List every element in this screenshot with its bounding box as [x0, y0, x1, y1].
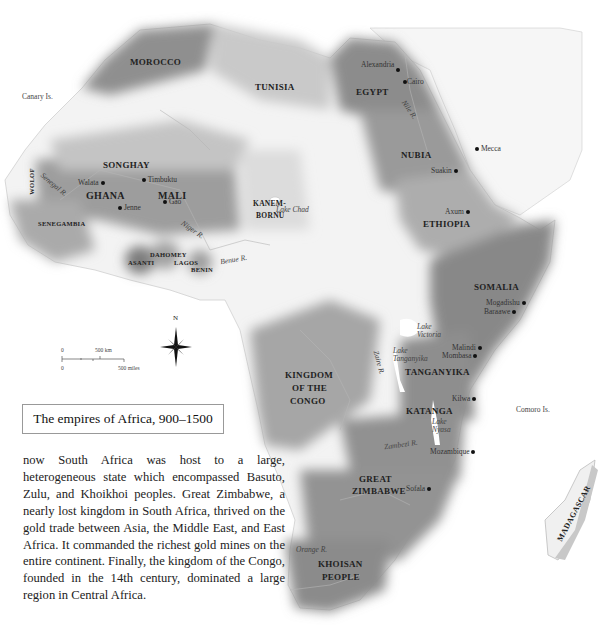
city-dot-mombasa [473, 354, 477, 358]
city-dot-mozambique [471, 450, 475, 454]
label-khoisan: KHOISAN [318, 559, 363, 570]
city-jenne: Jenne [118, 203, 141, 212]
scale-km-zero: 0 [61, 347, 64, 353]
scale-mi-zero: 0 [61, 365, 64, 371]
scale-mi-label: 500 miles [118, 365, 140, 371]
city-baraawe: Baraawe [484, 307, 516, 316]
region-shade-senegambia [10, 200, 95, 262]
city-dot-sofala [427, 487, 431, 491]
city-dot-suakin [454, 169, 458, 173]
label-lake-victoria: LakeVictoria [417, 323, 441, 339]
scale-km-label: 500 km [95, 347, 112, 353]
city-dot-kilwa [472, 397, 476, 401]
compass-rose [160, 327, 192, 367]
label-tanganyika: TANGANYIKA [405, 367, 470, 378]
city-alexandria: Alexandria [361, 60, 394, 69]
city-dot-gao [163, 200, 167, 204]
city-dot-axum [466, 210, 470, 214]
label-somalia: SOMALIA [474, 282, 519, 293]
city-mogadishu: Mogadishu [486, 298, 526, 307]
city-dot-mecca [475, 147, 479, 151]
city-sofala: Sofala [406, 484, 431, 493]
label-nubia: NUBIA [401, 150, 432, 161]
city-dot-jenne [118, 206, 122, 210]
label-morocco: MOROCCO [130, 57, 181, 68]
label-great: GREAT [359, 474, 392, 485]
label-wolof: WOLOF [26, 168, 37, 194]
city-dot-walata [101, 181, 105, 185]
city-dot-timbuktu [142, 178, 146, 182]
label-egypt: EGYPT [356, 87, 389, 98]
city-suakin: Suakin [431, 166, 458, 175]
city-mombasa: Mombasa [442, 351, 477, 360]
label-comoro-islands: Comoro Is. [516, 405, 550, 414]
city-kilwa: Kilwa [452, 394, 476, 403]
label-lake-tanganyika: LakeTanganyika [393, 347, 428, 363]
label-lake-chad: Lake Chad [276, 205, 309, 214]
label-zimbabwe: ZIMBABWE [352, 486, 406, 497]
city-mozambique: Mozambique [430, 447, 475, 456]
city-dot-baraawe [512, 310, 516, 314]
city-gao: Gao [163, 197, 181, 206]
city-axum: Axum [445, 207, 470, 216]
label-people: PEOPLE [322, 572, 360, 583]
city-timbuktu: Timbuktu [142, 175, 177, 184]
label-of-the: OF THE [292, 383, 327, 394]
city-cairo: Cairo [403, 77, 424, 86]
label-lake-nyasa: LakeNyasa [432, 418, 451, 434]
label-ethiopia: ETHIOPIA [423, 219, 470, 230]
label-orange-river: Orange R. [296, 545, 327, 554]
label-songhay: SONGHAY [103, 160, 150, 171]
city-walata: Walata [78, 178, 105, 187]
city-dot-malindi [478, 346, 482, 350]
label-benin: BENIN [191, 264, 213, 275]
label-congo: CONGO [290, 396, 326, 407]
city-dot-mogadishu [522, 301, 526, 305]
compass-north-label: N [173, 314, 178, 322]
body-paragraph: now South Africa was host to a large, he… [23, 452, 285, 604]
label-tunisia: TUNISIA [255, 82, 295, 93]
label-canary-islands: Canary Is. [22, 92, 53, 101]
scale-bar [62, 356, 124, 362]
label-senegambia: SENEGAMBIA [38, 218, 85, 229]
city-dot-alexandria [396, 68, 400, 72]
city-mecca: Mecca [475, 144, 501, 153]
label-katanga: KATANGA [406, 406, 453, 417]
label-asanti: ASANTI [128, 257, 154, 268]
label-kingdom: KINGDOM [285, 370, 333, 381]
map-title: The empires of Africa, 900–1500 [22, 404, 224, 434]
label-ghana: GHANA [86, 190, 125, 201]
